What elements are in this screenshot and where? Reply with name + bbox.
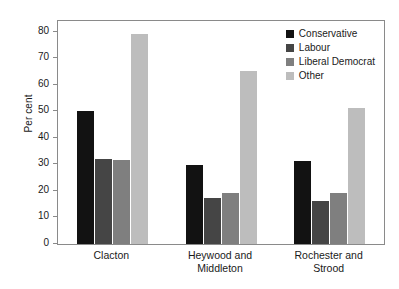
y-tick-mark: [53, 31, 58, 32]
bar: [222, 193, 239, 244]
y-tick-label: 40: [38, 131, 49, 142]
y-tick-label: 30: [38, 157, 49, 168]
legend-label: Other: [299, 70, 324, 81]
legend-swatch-icon: [286, 72, 294, 80]
y-tick-mark: [53, 110, 58, 111]
bar-chart-figure: Per cent 01020304050607080 ConservativeL…: [0, 0, 399, 289]
legend-label: Labour: [299, 42, 330, 53]
legend-swatch-icon: [286, 58, 294, 66]
bar: [113, 160, 130, 244]
bar: [186, 165, 203, 244]
bar: [77, 111, 94, 244]
y-tick-label: 60: [38, 78, 49, 89]
x-axis-label-line: Middleton: [160, 262, 280, 275]
legend-swatch-icon: [286, 44, 294, 52]
bar: [330, 193, 347, 244]
x-axis-label: Clacton: [51, 249, 171, 262]
legend-item-labour: Labour: [286, 41, 375, 54]
y-tick-mark: [53, 137, 58, 138]
plot-area: 01020304050607080 ConservativeLabourLibe…: [57, 20, 385, 245]
x-axis-label-line: Clacton: [51, 249, 171, 262]
bar: [240, 71, 257, 244]
y-tick-label: 80: [38, 25, 49, 36]
y-axis-title: Per cent: [23, 64, 34, 164]
x-axis-label-line: Heywood and: [160, 249, 280, 262]
legend-swatch-icon: [286, 30, 294, 38]
bar: [312, 201, 329, 244]
y-tick-mark: [53, 57, 58, 58]
y-tick-mark: [53, 190, 58, 191]
bar-group: [77, 21, 148, 244]
y-tick-mark: [53, 163, 58, 164]
legend-label: Conservative: [299, 28, 357, 39]
legend-label: Liberal Democrat: [299, 56, 375, 67]
y-tick-label: 10: [38, 210, 49, 221]
bar: [294, 161, 311, 244]
legend-item-other: Other: [286, 69, 375, 82]
y-tick-label: 50: [38, 104, 49, 115]
y-tick-label: 70: [38, 51, 49, 62]
x-axis-label: Rochester andStrood: [269, 249, 389, 274]
y-tick-mark: [53, 84, 58, 85]
bar: [348, 108, 365, 244]
chart-legend: ConservativeLabourLiberal DemocratOther: [286, 27, 375, 82]
bar: [131, 34, 148, 244]
legend-item-conservative: Conservative: [286, 27, 375, 40]
x-axis-label-line: Rochester and: [269, 249, 389, 262]
bar-group: [186, 21, 257, 244]
bar: [204, 198, 221, 244]
x-axis-label-line: Strood: [269, 262, 389, 275]
y-tick-mark: [53, 243, 58, 244]
y-tick-mark: [53, 216, 58, 217]
bar: [95, 159, 112, 244]
y-tick-label: 0: [43, 237, 49, 248]
x-axis-label: Heywood andMiddleton: [160, 249, 280, 274]
legend-item-liberal-democrat: Liberal Democrat: [286, 55, 375, 68]
y-tick-label: 20: [38, 184, 49, 195]
